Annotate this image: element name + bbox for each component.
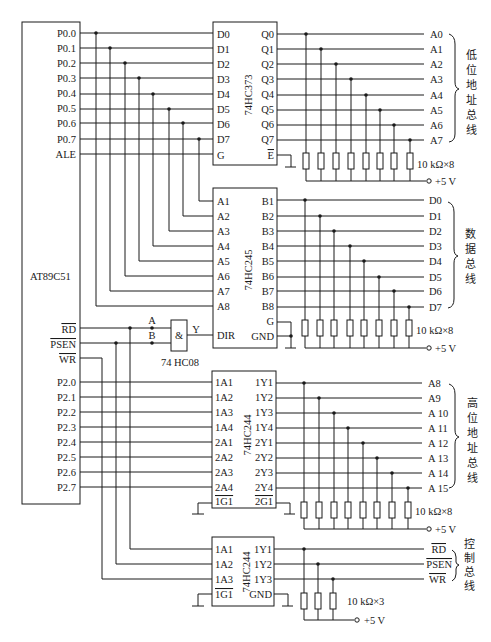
xcvr-in-a1: A1 bbox=[217, 196, 230, 207]
svg-text:总: 总 bbox=[464, 565, 475, 578]
low-pullup-label: 10 kΩ×8 bbox=[417, 159, 454, 170]
pin-p0-4: P0.4 bbox=[57, 88, 77, 99]
bufh-in-2a3: 2A3 bbox=[215, 467, 233, 478]
transceiver-name: 74HC245 bbox=[243, 250, 254, 291]
svg-text:线: 线 bbox=[466, 123, 477, 136]
bufh-out-2y4: 2Y4 bbox=[255, 482, 274, 493]
svg-text:总: 总 bbox=[466, 108, 477, 121]
xcvr-in-a3: A3 bbox=[217, 226, 230, 237]
pin-p0-1: P0.1 bbox=[57, 43, 76, 54]
control-wiring bbox=[80, 328, 212, 606]
latch-in-d6: D6 bbox=[217, 119, 230, 130]
xcvr-out-b5: B5 bbox=[262, 256, 274, 267]
and-gate-74hc08: & A B Y 74 HC08 bbox=[80, 315, 213, 368]
xcvr-out-b8: B8 bbox=[262, 301, 274, 312]
xcvr-out-b4: B4 bbox=[262, 241, 275, 252]
bus-wr: WR bbox=[429, 574, 446, 585]
pin-psen: PSEN bbox=[50, 339, 76, 350]
low-address-brace bbox=[449, 34, 459, 142]
bufh-in-2a2: 2A2 bbox=[215, 452, 233, 463]
pin-p0-3: P0.3 bbox=[57, 73, 76, 84]
pin-p2-7: P2.7 bbox=[57, 482, 76, 493]
latch-out-q1: Q1 bbox=[261, 44, 274, 55]
pin-p2-5: P2.5 bbox=[57, 452, 76, 463]
svg-text:低: 低 bbox=[466, 49, 477, 61]
high-address-pullup-resistors bbox=[301, 502, 411, 518]
data-pullup-resistors bbox=[302, 320, 412, 336]
bufh-out-1y3: 1Y3 bbox=[255, 407, 273, 418]
svg-text:位: 位 bbox=[466, 63, 477, 76]
bus-a0: A0 bbox=[430, 29, 443, 40]
buffer-74hc244-ctrl: 74HC244 1A1 1A2 1A3 1G1 1Y1 1Y2 1Y3 GND bbox=[212, 537, 274, 606]
buffer-ctrl-name: 74HC244 bbox=[241, 551, 252, 593]
p2-wiring bbox=[80, 382, 212, 514]
bus-a3: A3 bbox=[430, 74, 443, 85]
latch-out-q6: Q6 bbox=[261, 119, 274, 130]
pin-ale: ALE bbox=[56, 149, 76, 160]
bus-d6: D6 bbox=[429, 286, 442, 297]
vcc-terminal-icon bbox=[427, 527, 431, 531]
svg-text:位: 位 bbox=[467, 411, 478, 424]
svg-text:总: 总 bbox=[467, 456, 478, 469]
bufh-out-2y1: 2Y1 bbox=[255, 437, 273, 448]
bus-d5: D5 bbox=[429, 272, 442, 283]
bus-rd: RD bbox=[431, 544, 446, 555]
buffer-high-name: 74HC244 bbox=[242, 414, 253, 456]
buffer-74hc244-high: 74HC244 1A1 1A2 1A3 1A4 2A1 2A2 2A3 2A4 … bbox=[212, 371, 276, 508]
latch-out-q3: Q3 bbox=[261, 74, 274, 85]
bus-a9: A9 bbox=[428, 393, 441, 404]
xcvr-in-a8: A8 bbox=[217, 301, 230, 312]
low-address-pullup-resistors bbox=[303, 153, 413, 169]
mcu-name: AT89C51 bbox=[30, 271, 71, 282]
pin-p2-2: P2.2 bbox=[57, 407, 76, 418]
pin-p0-5: P0.5 bbox=[57, 103, 76, 114]
bufh-out-1y4: 1Y4 bbox=[255, 422, 274, 433]
bufh-out-2g1: 2G1 bbox=[255, 496, 273, 507]
low-vcc-label: +5 V bbox=[435, 176, 457, 187]
svg-text:地: 地 bbox=[467, 427, 478, 439]
pin-p2-1: P2.1 bbox=[57, 392, 76, 403]
bus-a6: A6 bbox=[430, 120, 443, 131]
and-gate-name: 74 HC08 bbox=[161, 357, 199, 368]
bus-a14: A 14 bbox=[428, 468, 449, 479]
svg-text:控: 控 bbox=[464, 537, 475, 550]
high-address-brace bbox=[449, 384, 459, 488]
bus-a2: A2 bbox=[430, 59, 443, 70]
pin-p2-6: P2.6 bbox=[57, 467, 76, 478]
xcvr-in-a5: A5 bbox=[217, 256, 230, 267]
pin-p2-0: P2.0 bbox=[57, 377, 76, 388]
xcvr-out-b6: B6 bbox=[262, 271, 274, 282]
control-bus-brace bbox=[452, 550, 459, 581]
pin-p0-6: P0.6 bbox=[57, 118, 76, 129]
bufh-out-2y2: 2Y2 bbox=[255, 452, 273, 463]
svg-text:线: 线 bbox=[465, 272, 476, 285]
latch-out-e: E bbox=[268, 150, 274, 161]
pin-p0-7: P0.7 bbox=[57, 134, 76, 145]
ctrl-pullup-label: 10 kΩ×3 bbox=[347, 596, 384, 607]
bus-d0: D0 bbox=[429, 195, 442, 206]
xcvr-in-a7: A7 bbox=[217, 286, 230, 297]
xcvr-out-b2: B2 bbox=[262, 211, 274, 222]
bus-a1: A1 bbox=[430, 44, 443, 55]
pin-p2-3: P2.3 bbox=[57, 422, 76, 433]
data-vcc-label: +5 V bbox=[435, 343, 457, 354]
pin-p0-2: P0.2 bbox=[57, 58, 76, 69]
data-pullup-label: 10 kΩ×8 bbox=[416, 325, 453, 336]
vcc-terminal-icon bbox=[427, 179, 431, 183]
xcvr-in-dir: DIR bbox=[217, 330, 235, 341]
bufh-out-2y3: 2Y3 bbox=[255, 467, 273, 478]
latch-in-d3: D3 bbox=[217, 74, 230, 85]
svg-text:数: 数 bbox=[465, 228, 476, 240]
bus-a13: A 13 bbox=[428, 453, 448, 464]
bus-a7: A7 bbox=[430, 135, 443, 146]
latch-out-q2: Q2 bbox=[261, 59, 274, 70]
svg-text:制: 制 bbox=[464, 552, 475, 564]
svg-text:地: 地 bbox=[466, 79, 477, 91]
bufh-in-1a2: 1A2 bbox=[215, 392, 233, 403]
control-pullup-resistors bbox=[301, 593, 336, 609]
latch-name: 74HC373 bbox=[243, 75, 254, 116]
latch-in-d4: D4 bbox=[217, 89, 231, 100]
bus-a8: A8 bbox=[428, 378, 441, 389]
bus-d4: D4 bbox=[429, 256, 443, 267]
bus-d3: D3 bbox=[429, 241, 442, 252]
